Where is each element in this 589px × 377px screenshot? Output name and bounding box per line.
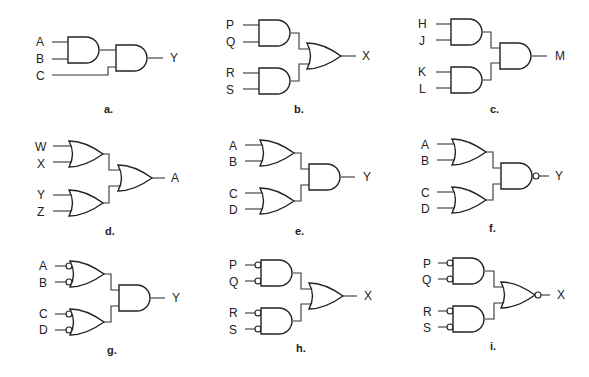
or-gate-d-2 <box>69 190 103 216</box>
input-label-a-3: C <box>36 69 45 83</box>
and-gate-c-2 <box>451 67 482 93</box>
or-gate-b-final <box>307 43 341 69</box>
and-gate-a-1 <box>68 37 99 63</box>
circuit-d: W X Y Z A d. <box>35 140 179 237</box>
input-label-h-4: S <box>229 323 237 337</box>
circuit-g: A B C D Y g. <box>39 259 180 356</box>
input-label-f-3: C <box>421 186 430 200</box>
input-label-c-2: J <box>419 34 425 48</box>
output-label-d: A <box>171 171 179 185</box>
circuit-c: H J K L M c. <box>418 17 565 115</box>
and-gate-e-final <box>309 164 340 190</box>
input-label-e-1: A <box>229 139 237 153</box>
inversion-bubble-i-1 <box>447 260 453 266</box>
or-gate-e-2 <box>260 188 294 214</box>
input-label-e-3: C <box>229 187 238 201</box>
input-label-b-4: S <box>226 83 234 97</box>
input-label-g-2: B <box>39 276 47 290</box>
input-label-f-2: B <box>421 154 429 168</box>
or-gate-f-2 <box>452 187 486 213</box>
input-label-f-1: A <box>421 138 429 152</box>
nand-gate-f-final <box>501 163 532 189</box>
caption-b: b. <box>294 103 304 115</box>
caption-e: e. <box>295 225 304 237</box>
inversion-bubble-h-3 <box>255 310 261 316</box>
input-label-h-1: P <box>229 258 237 272</box>
and-gate-g-final <box>119 285 150 311</box>
input-label-g-3: C <box>39 307 48 321</box>
output-label-h: X <box>364 289 372 303</box>
caption-a: a. <box>104 103 113 115</box>
and-gate-i-1 <box>453 258 484 284</box>
input-label-h-3: R <box>229 306 238 320</box>
input-label-d-4: Z <box>37 205 44 219</box>
logic-circuits-diagram: A B C Y a. P Q R S X b. H J K L <box>0 0 589 377</box>
or-gate-e-1 <box>260 140 294 166</box>
input-label-e-2: B <box>229 155 237 169</box>
output-label-a: Y <box>170 51 178 65</box>
input-label-h-2: Q <box>229 275 238 289</box>
caption-h: h. <box>296 342 306 354</box>
or-gate-d-final <box>118 165 152 191</box>
inversion-bubble-f-output <box>533 173 539 179</box>
input-label-i-2: Q <box>422 273 431 287</box>
input-label-a-2: B <box>36 52 44 66</box>
circuit-h: P Q R S X h. <box>229 258 372 354</box>
output-label-g: Y <box>172 291 180 305</box>
input-label-i-1: P <box>423 257 431 271</box>
and-gate-a-final <box>116 45 147 71</box>
input-label-d-3: Y <box>37 188 45 202</box>
circuit-i: P Q R S X i. <box>422 257 565 352</box>
input-label-c-1: H <box>418 17 427 31</box>
input-label-i-4: S <box>423 321 431 335</box>
or-gate-h-final <box>309 283 343 309</box>
input-label-g-4: D <box>39 323 48 337</box>
and-gate-i-2 <box>453 306 484 332</box>
input-label-b-3: R <box>226 66 235 80</box>
input-label-d-2: X <box>37 157 45 171</box>
input-label-a-1: A <box>36 35 44 49</box>
caption-g: g. <box>107 344 117 356</box>
or-gate-g-2 <box>70 309 104 335</box>
output-label-b: X <box>362 49 370 63</box>
caption-f: f. <box>489 222 496 234</box>
and-gate-c-1 <box>451 19 482 45</box>
and-gate-c-final <box>500 43 531 69</box>
inversion-bubble-i-3 <box>447 308 453 314</box>
caption-c: c. <box>490 103 499 115</box>
input-label-i-3: R <box>423 305 432 319</box>
inversion-bubble-h-1 <box>255 262 261 268</box>
and-gate-h-1 <box>261 260 292 286</box>
inversion-bubble-i-2 <box>447 276 453 282</box>
input-label-c-3: K <box>418 65 426 79</box>
input-label-b-2: Q <box>226 35 235 49</box>
circuit-f: A B C D Y f. <box>421 138 563 234</box>
input-label-f-4: D <box>421 202 430 216</box>
inversion-bubble-h-2 <box>255 278 261 284</box>
and-gate-b-1 <box>259 20 290 46</box>
circuit-e: A B C D Y e. <box>229 139 371 237</box>
input-label-g-1: A <box>39 259 47 273</box>
nor-gate-i-final <box>501 282 535 308</box>
or-gate-d-1 <box>69 141 103 167</box>
and-gate-h-2 <box>261 308 292 334</box>
and-gate-b-2 <box>259 68 290 94</box>
or-gate-f-1 <box>452 139 486 165</box>
input-label-c-4: L <box>419 82 426 96</box>
output-label-i: X <box>557 288 565 302</box>
inversion-bubble-h-4 <box>255 326 261 332</box>
input-label-d-1: W <box>35 140 47 154</box>
inversion-bubble-i-output <box>535 292 541 298</box>
output-label-e: Y <box>363 170 371 184</box>
caption-d: d. <box>105 225 115 237</box>
input-label-b-1: P <box>226 18 234 32</box>
or-gate-g-1 <box>70 261 104 287</box>
circuit-b: P Q R S X b. <box>226 18 370 115</box>
input-label-e-4: D <box>229 203 238 217</box>
inversion-bubble-i-4 <box>447 324 453 330</box>
output-label-c: M <box>555 49 565 63</box>
caption-i: i. <box>490 340 496 352</box>
circuit-a: A B C Y a. <box>36 35 178 115</box>
output-label-f: Y <box>555 169 563 183</box>
